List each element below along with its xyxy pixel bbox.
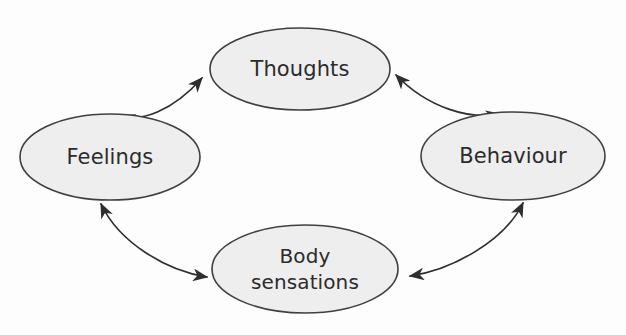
node-behaviour[interactable]: Behaviour	[421, 112, 605, 200]
node-body-sensations-label-line2: sensations	[251, 270, 359, 294]
link-thoughts-feelings	[121, 78, 202, 118]
link-thoughts-behaviour	[396, 75, 500, 115]
link-feelings-body-sensations	[101, 204, 207, 277]
node-body-sensations[interactable]: Body sensations	[212, 225, 398, 313]
cbt-cycle-diagram: Thoughts Feelings Behaviour Body sensati…	[0, 0, 626, 335]
link-behaviour-body-sensations	[410, 203, 523, 276]
node-behaviour-label: Behaviour	[459, 144, 567, 168]
node-feelings[interactable]: Feelings	[20, 114, 200, 200]
node-thoughts-label: Thoughts	[250, 57, 350, 81]
node-thoughts[interactable]: Thoughts	[210, 28, 390, 110]
node-body-sensations-label-line1: Body	[280, 244, 331, 268]
diagram-canvas: Thoughts Feelings Behaviour Body sensati…	[0, 0, 626, 335]
node-feelings-label: Feelings	[67, 145, 154, 169]
